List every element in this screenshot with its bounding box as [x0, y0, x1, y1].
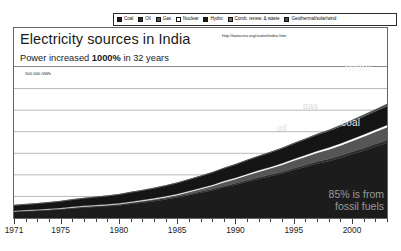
x-tick-major	[14, 219, 15, 224]
x-tick-minor	[107, 219, 108, 222]
x-tick-minor	[166, 219, 167, 222]
subtitle-prefix: Power increased	[20, 53, 92, 63]
x-tick-minor	[317, 219, 318, 222]
legend-swatch-hydro	[203, 17, 208, 22]
series-label-oil: oil	[277, 123, 287, 133]
x-axis-label: 1990	[226, 225, 245, 235]
x-axis-labels: 1971197519801985199019952000	[0, 225, 401, 239]
x-tick-minor	[142, 219, 143, 222]
subtitle-suffix: in 32 years	[121, 53, 169, 63]
legend-item-hydro: Hydro	[203, 17, 222, 22]
legend-label-geothermal-solar-wind: Geothermal/solar/wind	[291, 17, 336, 22]
legend-item-geothermal-solar-wind: Geothermal/solar/wind	[284, 17, 336, 22]
chart-legend: Coal Oil Gas Nuclear Hydro Comb. renew. …	[113, 13, 397, 26]
legend-swatch-coal	[117, 17, 122, 22]
x-tick-major	[294, 219, 295, 224]
legend-item-oil: Oil	[138, 17, 150, 22]
legend-item-comb-renew-waste: Comb. renew. & waste	[228, 17, 280, 22]
legend-label-nuclear: Nuclear	[183, 17, 198, 22]
x-axis-label: 1975	[51, 225, 70, 235]
x-tick-minor	[375, 219, 376, 222]
x-tick-minor	[84, 219, 85, 222]
x-tick-minor	[270, 219, 271, 222]
legend-label-gas: Gas	[163, 17, 171, 22]
source-url: http://www.iea.org/statist/index.htm	[222, 33, 286, 38]
fossil-note-line1: 85% is from	[256, 188, 384, 200]
legend-swatch-oil	[138, 17, 143, 22]
x-axis-label: 1985	[168, 225, 187, 235]
series-label-coal: coal	[341, 117, 360, 128]
fossil-fuel-annotation: 85% is from fossil fuels	[256, 188, 384, 212]
x-tick-minor	[364, 219, 365, 222]
legend-swatch-gas	[156, 17, 161, 22]
x-tick-minor	[189, 219, 190, 222]
legend-label-oil: Oil	[145, 17, 150, 22]
legend-label-hydro: Hydro	[210, 17, 222, 22]
legend-item-nuclear: Nuclear	[176, 17, 198, 22]
legend-swatch-comb-renew-waste	[228, 17, 233, 22]
x-tick-minor	[201, 219, 202, 222]
chart-root: Coal Oil Gas Nuclear Hydro Comb. renew. …	[0, 0, 401, 251]
x-tick-minor	[387, 219, 388, 222]
x-tick-minor	[259, 219, 260, 222]
legend-label-comb-renew-waste: Comb. renew. & waste	[235, 17, 280, 22]
x-tick-minor	[96, 219, 97, 222]
legend-swatch-geothermal-solar-wind	[284, 17, 289, 22]
x-tick-major	[235, 219, 236, 224]
legend-label-coal: Coal	[124, 17, 133, 22]
x-tick-minor	[37, 219, 38, 222]
x-tick-major	[61, 219, 62, 224]
x-axis-label: 1980	[110, 225, 129, 235]
x-tick-minor	[282, 219, 283, 222]
x-tick-minor	[305, 219, 306, 222]
x-tick-minor	[154, 219, 155, 222]
chart-subtitle: Power increased 1000% in 32 years	[20, 53, 169, 63]
x-tick-major	[177, 219, 178, 224]
fossil-note-line2: fossil fuels	[256, 200, 384, 212]
series-label-hydro: hydro	[345, 62, 371, 73]
x-tick-minor	[26, 219, 27, 222]
x-tick-minor	[72, 219, 73, 222]
x-axis-label: 1971	[5, 225, 24, 235]
x-tick-minor	[340, 219, 341, 222]
x-axis-label: 1995	[284, 225, 303, 235]
x-tick-major	[352, 219, 353, 224]
x-tick-minor	[49, 219, 50, 222]
x-tick-major	[119, 219, 120, 224]
legend-item-gas: Gas	[156, 17, 171, 22]
x-tick-minor	[224, 219, 225, 222]
legend-item-coal: Coal	[117, 17, 133, 22]
x-tick-minor	[131, 219, 132, 222]
legend-swatch-nuclear	[176, 17, 181, 22]
x-tick-minor	[329, 219, 330, 222]
subtitle-emphasis: 1000%	[92, 53, 121, 63]
x-axis-label: 2000	[343, 225, 362, 235]
page-title: Electricity sources in India	[20, 31, 190, 47]
x-tick-minor	[247, 219, 248, 222]
x-tick-minor	[212, 219, 213, 222]
series-label-gas: gas	[303, 101, 318, 111]
